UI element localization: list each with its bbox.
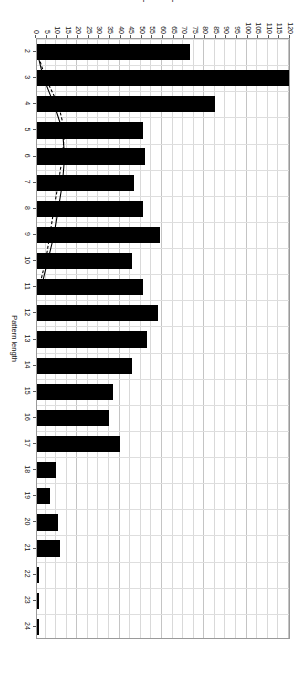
x-tick-label-8: 8 bbox=[23, 198, 31, 218]
y-tick-label-25: 25 bbox=[85, 12, 93, 34]
x-tick-mark bbox=[33, 312, 36, 313]
x-tick-label-5: 5 bbox=[23, 119, 31, 139]
cumulative-curve-dashed bbox=[37, 52, 65, 287]
x-tick-mark bbox=[33, 156, 36, 157]
y-tick-label-5: 5 bbox=[43, 12, 51, 34]
x-tick-label-17: 17 bbox=[23, 433, 31, 453]
x-tick-mark bbox=[33, 103, 36, 104]
x-tick-label-18: 18 bbox=[23, 459, 31, 479]
y-tick-label-10: 10 bbox=[53, 12, 61, 34]
x-tick-mark bbox=[33, 234, 36, 235]
x-tick-mark bbox=[33, 51, 36, 52]
x-tick-mark bbox=[33, 443, 36, 444]
x-tick-label-15: 15 bbox=[23, 381, 31, 401]
x-tick-mark bbox=[33, 129, 36, 130]
x-tick-label-14: 14 bbox=[23, 355, 31, 375]
x-tick-mark bbox=[33, 600, 36, 601]
y-tick-label-55: 55 bbox=[148, 12, 156, 34]
y-tick-label-20: 20 bbox=[74, 12, 82, 34]
x-tick-label-3: 3 bbox=[23, 67, 31, 87]
x-tick-mark bbox=[33, 417, 36, 418]
x-tick-mark bbox=[33, 626, 36, 627]
x-tick-label-11: 11 bbox=[23, 276, 31, 296]
y-tick-label-80: 80 bbox=[201, 12, 209, 34]
x-tick-label-7: 7 bbox=[23, 172, 31, 192]
plot-area bbox=[36, 38, 290, 639]
y-tick-label-85: 85 bbox=[212, 12, 220, 34]
y-tick-label-115: 115 bbox=[275, 12, 283, 34]
y-tick-label-90: 90 bbox=[223, 12, 231, 34]
x-tick-mark bbox=[33, 521, 36, 522]
y-tick-label-75: 75 bbox=[191, 12, 199, 34]
x-tick-label-2: 2 bbox=[23, 41, 31, 61]
x-tick-mark bbox=[33, 548, 36, 549]
y-tick-label-60: 60 bbox=[159, 12, 167, 34]
x-tick-mark bbox=[33, 77, 36, 78]
x-tick-mark bbox=[33, 260, 36, 261]
y-tick-label-45: 45 bbox=[127, 12, 135, 34]
x-tick-label-16: 16 bbox=[23, 407, 31, 427]
x-tick-label-13: 13 bbox=[23, 329, 31, 349]
x-tick-label-21: 21 bbox=[23, 538, 31, 558]
y-tick-label-105: 105 bbox=[254, 12, 262, 34]
x-tick-mark bbox=[33, 182, 36, 183]
x-tick-mark bbox=[33, 339, 36, 340]
x-tick-mark bbox=[33, 391, 36, 392]
x-tick-label-19: 19 bbox=[23, 485, 31, 505]
chart-figure: Independent patterns 1201151101051009590… bbox=[0, 0, 302, 675]
y-tick-label-30: 30 bbox=[96, 12, 104, 34]
y-tick-label-40: 40 bbox=[117, 12, 125, 34]
x-tick-label-6: 6 bbox=[23, 146, 31, 166]
x-tick-mark bbox=[33, 469, 36, 470]
overlay-curve-series bbox=[36, 39, 289, 639]
y-tick-label-50: 50 bbox=[138, 12, 146, 34]
x-tick-mark bbox=[33, 208, 36, 209]
y-tick-label-100: 100 bbox=[244, 12, 252, 34]
x-tick-mark bbox=[33, 495, 36, 496]
x-tick-label-23: 23 bbox=[23, 590, 31, 610]
x-tick-label-9: 9 bbox=[23, 224, 31, 244]
x-tick-label-10: 10 bbox=[23, 250, 31, 270]
y-tick-label-70: 70 bbox=[180, 12, 188, 34]
y-tick-label-110: 110 bbox=[265, 12, 273, 34]
y-tick-label-15: 15 bbox=[64, 12, 72, 34]
y-tick-label-35: 35 bbox=[106, 12, 114, 34]
y-tick-label-120: 120 bbox=[286, 12, 294, 34]
x-tick-label-22: 22 bbox=[23, 564, 31, 584]
x-tick-label-24: 24 bbox=[23, 616, 31, 636]
y-axis-title: Independent patterns bbox=[109, 0, 219, 2]
x-tick-mark bbox=[33, 365, 36, 366]
y-tick-label-65: 65 bbox=[170, 12, 178, 34]
y-tick-label-0: 0 bbox=[32, 12, 40, 34]
rotated-figure-container: Independent patterns 1201151101051009590… bbox=[0, 0, 302, 675]
x-axis-title: Pattern length bbox=[10, 294, 19, 384]
y-tick-label-95: 95 bbox=[233, 12, 241, 34]
x-tick-label-20: 20 bbox=[23, 511, 31, 531]
x-tick-label-4: 4 bbox=[23, 93, 31, 113]
x-tick-mark bbox=[33, 286, 36, 287]
x-tick-mark bbox=[33, 574, 36, 575]
x-tick-label-12: 12 bbox=[23, 302, 31, 322]
